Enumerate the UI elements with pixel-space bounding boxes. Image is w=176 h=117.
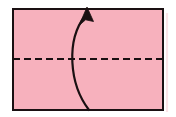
diagram-canvas (0, 0, 176, 117)
origami-diagram (0, 0, 176, 117)
